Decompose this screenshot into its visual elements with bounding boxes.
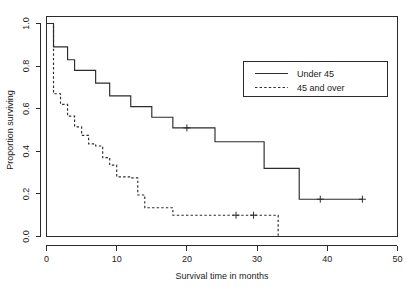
- kaplan-meier-plot: 0 10 20 30 40 50 Survival time in months…: [0, 0, 413, 291]
- legend-label-under-45: Under 45: [297, 69, 334, 79]
- survival-curve-45-and-over: [47, 24, 279, 237]
- survival-curve-figure: 0 10 20 30 40 50 Survival time in months…: [0, 0, 413, 291]
- survival-curve-under-45: [47, 24, 363, 200]
- legend: Under 45 45 and over: [244, 62, 388, 97]
- y-axis-ticks: [36, 24, 41, 237]
- y-tick-label-1-0: 1.0: [21, 17, 31, 30]
- x-axis-ticks: [47, 246, 398, 251]
- x-tick-label-20: 20: [182, 254, 192, 264]
- y-tick-label-0-8: 0.8: [21, 60, 31, 73]
- plot-panel-border: [47, 17, 398, 237]
- series-group: [47, 24, 366, 237]
- x-tick-label-10: 10: [112, 254, 122, 264]
- censor-marks-under-45: [183, 124, 366, 202]
- y-axis: 0.0 0.2 0.4 0.6 0.8 1.0 Proportion survi…: [5, 17, 41, 243]
- y-tick-label-0-6: 0.6: [21, 102, 31, 115]
- x-tick-label-40: 40: [322, 254, 332, 264]
- x-tick-label-50: 50: [392, 254, 402, 264]
- y-tick-label-0-4: 0.4: [21, 145, 31, 158]
- x-axis-title: Survival time in months: [175, 271, 269, 281]
- x-tick-label-0: 0: [44, 254, 49, 264]
- legend-label-45-and-over: 45 and over: [297, 83, 345, 93]
- x-axis: 0 10 20 30 40 50 Survival time in months: [44, 246, 403, 282]
- y-axis-title: Proportion surviving: [5, 90, 15, 170]
- y-tick-label-0-0: 0.0: [21, 230, 31, 243]
- y-tick-label-0-2: 0.2: [21, 188, 31, 201]
- x-tick-label-30: 30: [252, 254, 262, 264]
- censor-marks-45-and-over: [233, 212, 258, 219]
